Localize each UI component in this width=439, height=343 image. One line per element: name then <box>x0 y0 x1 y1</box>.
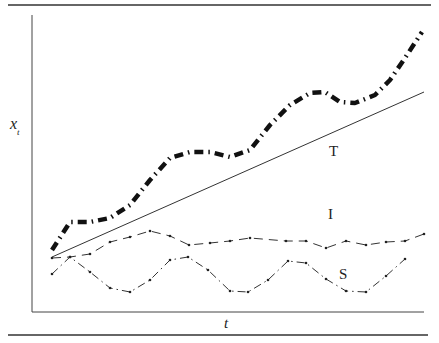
plot-area <box>0 0 439 343</box>
data-point-marker <box>207 269 210 272</box>
data-point-marker <box>404 240 407 243</box>
irregular-markers <box>51 230 426 260</box>
data-point-marker <box>229 240 232 243</box>
seasonal-line <box>52 257 405 292</box>
data-point-marker <box>385 275 388 278</box>
data-point-marker <box>285 240 288 243</box>
data-point-marker <box>267 279 270 282</box>
seasonal-markers <box>51 256 407 294</box>
decomposition-figure: xt t T I S <box>0 0 439 343</box>
data-point-marker <box>385 241 388 244</box>
data-point-marker <box>89 271 92 274</box>
data-point-marker <box>51 273 54 276</box>
data-point-marker <box>129 291 132 294</box>
data-point-marker <box>109 241 112 244</box>
irregular-label: I <box>328 207 333 222</box>
x-axis-label: t <box>224 316 228 331</box>
data-point-marker <box>209 242 212 245</box>
trend-label: T <box>329 144 338 159</box>
data-point-marker <box>169 259 172 262</box>
data-point-marker <box>345 240 348 243</box>
data-point-marker <box>325 278 328 281</box>
observed-series-line <box>52 32 422 250</box>
data-point-marker <box>365 291 368 294</box>
seasonal-label: S <box>339 267 347 282</box>
data-point-marker <box>423 233 426 236</box>
data-point-marker <box>149 279 152 282</box>
trend-line <box>52 92 424 257</box>
data-point-marker <box>305 240 308 243</box>
data-point-marker <box>229 290 232 293</box>
data-point-marker <box>149 230 152 233</box>
data-point-marker <box>51 257 54 260</box>
data-point-marker <box>129 236 132 239</box>
data-point-marker <box>404 258 407 261</box>
data-point-marker <box>169 235 172 238</box>
data-point-marker <box>89 253 92 256</box>
data-point-marker <box>188 244 191 247</box>
data-point-marker <box>187 256 190 259</box>
data-point-marker <box>249 237 252 240</box>
data-point-marker <box>305 262 308 265</box>
data-point-marker <box>247 291 250 294</box>
data-point-marker <box>109 287 112 290</box>
data-point-marker <box>287 260 290 263</box>
data-point-marker <box>69 256 72 259</box>
data-point-marker <box>325 247 328 250</box>
irregular-line <box>52 231 424 258</box>
data-point-marker <box>345 290 348 293</box>
data-point-marker <box>365 244 368 247</box>
y-axis-label: xt <box>10 116 20 135</box>
